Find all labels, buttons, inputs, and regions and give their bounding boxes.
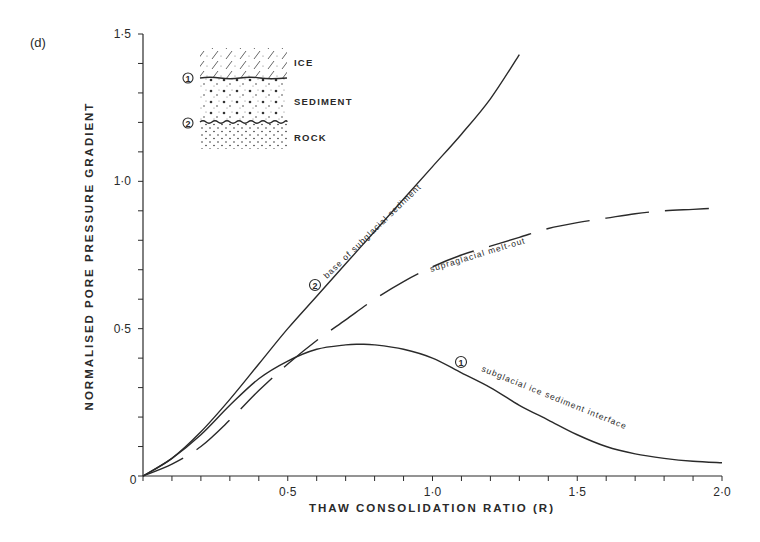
inset-label-ice: ICE [294,57,313,68]
inset-marker-1-text: 1 [185,74,190,84]
x-tick-label: 0 [130,473,137,487]
curve2-text: base of subglacial sediment [321,182,423,281]
inset-label-sediment: SEDIMENT [294,96,353,107]
x-axis-title: THAW CONSOLIDATION RATIO (R) [309,502,555,514]
y-axis-title: NORMALISED PORE PRESSURE GRADIENT [83,102,95,411]
y-tick-label: 1·5 [114,27,132,41]
inset-diagram: 1 2 ICE SEDIMENT ROCK [183,48,353,149]
panel-label: (d) [30,35,46,50]
inset-marker-2-text: 2 [185,119,190,129]
series-subglacial-ice-sediment-interface [143,344,722,476]
marker-2-text: 2 [312,281,317,291]
rock-layer [200,122,287,149]
x-tick-label: 0·5 [279,485,297,499]
x-tick-label: 2·0 [713,485,731,499]
curve3-label: supraglacial melt-out [429,235,527,274]
marker-1-text: 1 [458,358,463,368]
chart-canvas: (d) 00·51·01·52·00·51·01·5 THAW CONSOLID… [0,0,760,542]
curve1-text: subglacial ice sediment interface [480,364,628,432]
y-tick-label: 0·5 [114,322,132,336]
series-supraglacial-melt-out [143,208,722,476]
ice-layer [200,48,287,78]
sediment-layer [200,78,287,122]
y-tick-label: 1·0 [114,174,132,188]
inset-label-rock: ROCK [294,132,327,143]
curve1-label: 1 subglacial ice sediment interface [456,357,629,432]
x-tick-label: 1·0 [424,485,442,499]
curve3-text: supraglacial melt-out [429,235,527,274]
curve2-label: 2 base of subglacial sediment [310,182,424,291]
x-tick-label: 1·5 [569,485,587,499]
